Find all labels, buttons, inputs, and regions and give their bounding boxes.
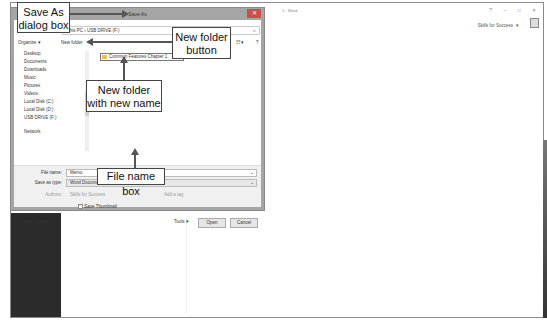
help-button[interactable]: ? <box>489 7 497 13</box>
arrow-head <box>86 38 93 46</box>
address-path: This PC › USB DRIVE (F:) <box>67 28 120 33</box>
folder-name: Common Features Chapter 1 <box>109 54 167 59</box>
window-controls[interactable]: ? – □ ✕ <box>489 7 541 13</box>
nav-item-music[interactable]: Music <box>18 74 88 82</box>
tags-value[interactable]: Add a tag <box>164 192 183 197</box>
new-folder-button[interactable]: New folder <box>61 40 83 45</box>
arrow-head <box>120 56 128 63</box>
search-icon[interactable]: ⌕ <box>253 27 256 34</box>
cancel-button[interactable]: Cancel <box>230 218 258 228</box>
minimize-button[interactable]: – <box>503 7 511 13</box>
help-icon[interactable]: ? <box>256 40 259 45</box>
hide-folders-label: Hide Folders <box>23 219 49 224</box>
save-thumbnail-checkbox[interactable]: Save Thumbnail <box>78 204 117 209</box>
nav-item-network[interactable]: Network <box>18 128 88 136</box>
callout-file-name-box: File name box <box>97 168 165 185</box>
backstage-divider <box>186 218 187 314</box>
nav-item-downloads[interactable]: Downloads <box>18 66 88 74</box>
authors-value[interactable]: Skills for Success <box>70 192 105 197</box>
view-options-button[interactable]: ☷ ▾ <box>236 40 244 45</box>
authors-label: Authors: <box>14 192 62 197</box>
nav-item-documents[interactable]: Documents <box>18 58 88 66</box>
nav-item-pictures[interactable]: Pictures <box>18 82 88 90</box>
arrow-head <box>122 10 129 18</box>
close-button[interactable]: ✕ <box>532 7 541 13</box>
open-button[interactable]: Open <box>198 218 226 228</box>
nav-item-local-disk-d[interactable]: Local Disk (D:) <box>18 106 88 114</box>
file-name-value: Memo <box>70 170 83 175</box>
file-name-label: File name: <box>14 170 62 175</box>
account-menu[interactable]: Skills for Success ▾ <box>478 20 531 30</box>
arrow <box>70 13 122 15</box>
nav-item-local-disk-c[interactable]: Local Disk (C:) <box>18 98 88 106</box>
nav-item-usb-drive[interactable]: USB DRIVE (F:) <box>18 114 88 122</box>
nav-item-videos[interactable]: Videos <box>18 90 88 98</box>
callout-save-as-dialog: Save As dialog box <box>17 2 70 33</box>
chevron-down-icon[interactable]: ⌄ <box>250 180 254 186</box>
chevron-down-icon[interactable]: ⌄ <box>250 170 254 176</box>
restore-button[interactable]: □ <box>518 7 526 13</box>
arrow <box>123 60 125 80</box>
hide-folders-button[interactable]: ⌃ Hide Folders <box>18 219 49 224</box>
save-as-type-label: Save as type: <box>14 180 62 185</box>
nav-item-desktop[interactable]: Desktop <box>18 50 88 58</box>
callout-new-folder-button: New folder button <box>172 27 231 59</box>
callout-new-folder-name: New folder with new name <box>86 80 162 112</box>
organize-button[interactable]: Organize ▾ <box>18 40 41 45</box>
word-backstage-sidebar <box>11 213 61 317</box>
tools-menu[interactable]: Tools ▾ <box>174 219 189 224</box>
account-name: Skills for Success <box>478 23 513 28</box>
save-thumbnail-label: Save Thumbnail <box>84 204 116 209</box>
dialog-close-button[interactable]: ✕ <box>247 9 261 18</box>
navigation-pane: Desktop Documents Downloads Music Pictur… <box>18 50 88 160</box>
arrow-head <box>131 148 139 155</box>
avatar[interactable] <box>530 18 539 28</box>
word-title: 1 - Word <box>282 8 297 13</box>
dialog-title: Save As <box>128 11 146 17</box>
chevron-down-icon: ▾ <box>516 23 519 28</box>
arrow <box>92 41 172 43</box>
window-edge <box>543 140 547 318</box>
arrow <box>134 153 136 168</box>
folder-icon <box>102 55 107 59</box>
